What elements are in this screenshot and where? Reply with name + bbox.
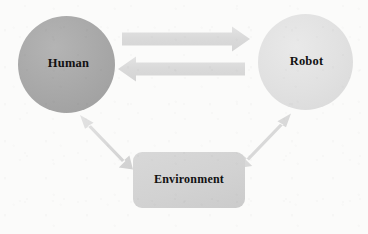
connector-robot-to-human[interactable] [116, 56, 247, 83]
node-robot[interactable]: Robot [258, 14, 353, 110]
connector-human-environment[interactable] [78, 113, 135, 171]
diagram-canvas: Human Robot Environment [0, 0, 368, 234]
connector-human-to-robot[interactable] [118, 26, 252, 53]
node-human-label: Human [48, 57, 89, 70]
connector-robot-environment[interactable] [236, 112, 293, 170]
node-environment[interactable]: Environment [133, 152, 245, 208]
node-human[interactable]: Human [18, 16, 115, 113]
node-environment-label: Environment [154, 173, 224, 185]
node-robot-label: Robot [290, 55, 324, 68]
